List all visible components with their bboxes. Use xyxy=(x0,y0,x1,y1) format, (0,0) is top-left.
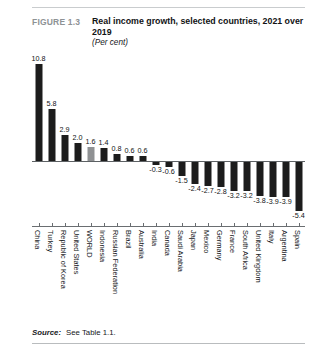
axis-tick xyxy=(286,223,287,226)
bar-slot: 0.6 xyxy=(123,56,136,226)
chart-bar[interactable] xyxy=(191,162,198,184)
bar-value-label: -2.7 xyxy=(201,187,213,195)
axis-tick xyxy=(182,223,183,226)
bar-value-label: 5.8 xyxy=(47,100,57,108)
axis-tick xyxy=(143,223,144,226)
bar-value-label: 10.8 xyxy=(32,55,46,63)
figure-title-block: Real income growth, selected countries, … xyxy=(92,16,307,47)
chart-bar[interactable] xyxy=(230,162,237,191)
bar-value-label: 1.6 xyxy=(86,138,96,146)
chart-bar[interactable] xyxy=(61,135,68,161)
bar-slot: -3.8 xyxy=(253,56,266,226)
top-divider xyxy=(32,7,305,8)
chart-bar[interactable] xyxy=(243,162,250,191)
chart-bar[interactable] xyxy=(269,162,276,197)
axis-tick xyxy=(234,223,235,226)
category-label: Italy xyxy=(268,230,275,244)
chart-bar[interactable] xyxy=(178,162,185,176)
chart-bar[interactable] xyxy=(48,109,55,161)
category-label: South Africa xyxy=(242,230,249,270)
bar-value-label: 1.4 xyxy=(99,139,109,147)
bar-slot: -3.2 xyxy=(240,56,253,226)
category-label: Mexico xyxy=(203,230,210,253)
bar-slot: 1.4 xyxy=(97,56,110,226)
axis-tick xyxy=(273,223,274,226)
bar-slot: -0.3 xyxy=(149,56,162,226)
axis-tick xyxy=(117,223,118,226)
chart-bar[interactable] xyxy=(256,162,263,196)
bar-slot: -3.9 xyxy=(266,56,279,226)
category-axis xyxy=(32,226,305,227)
bar-value-label: 2.9 xyxy=(60,126,70,134)
axis-tick xyxy=(169,223,170,226)
bar-slot: 1.6 xyxy=(84,56,97,226)
axis-tick xyxy=(91,223,92,226)
category-labels: ChinaTurkeyRepublic of KoreaUnited State… xyxy=(32,230,305,315)
bar-value-label: 2.0 xyxy=(73,134,83,142)
category-label: Australia xyxy=(138,230,145,259)
source-note: Source:See Table 1.1. xyxy=(32,328,116,337)
category-label: Saudi Arabia xyxy=(177,230,184,272)
chart-bar[interactable] xyxy=(100,148,107,161)
bar-value-label: -0.3 xyxy=(149,166,161,174)
chart-bar[interactable] xyxy=(217,162,224,187)
axis-tick xyxy=(52,223,53,226)
figure-container: FIGURE 1.3 Real income growth, selected … xyxy=(0,0,319,352)
bar-slot: -3.2 xyxy=(227,56,240,226)
bar-value-label: -2.8 xyxy=(214,188,226,196)
chart-bar[interactable] xyxy=(74,143,81,161)
axis-tick xyxy=(260,223,261,226)
category-label: Canada xyxy=(164,230,171,256)
axis-tick xyxy=(78,223,79,226)
category-label: Turkey xyxy=(47,230,54,252)
axis-tick xyxy=(130,223,131,226)
chart-bar[interactable] xyxy=(113,154,120,161)
chart-bar[interactable] xyxy=(87,147,94,161)
axis-tick xyxy=(221,223,222,226)
bar-slot: 2.0 xyxy=(71,56,84,226)
chart-bar[interactable] xyxy=(295,162,302,211)
category-label: China xyxy=(34,230,41,249)
bar-value-label: -0.6 xyxy=(162,168,174,176)
bar-value-label: -3.2 xyxy=(227,192,239,200)
category-label: France xyxy=(229,230,236,253)
category-label: United States xyxy=(73,230,80,274)
bar-chart-plot: 10.85.82.92.01.61.40.80.60.6-0.3-0.6-1.5… xyxy=(32,56,305,226)
chart-bar[interactable] xyxy=(139,156,146,161)
category-label: WORLD xyxy=(86,230,93,258)
figure-number: FIGURE 1.3 xyxy=(32,17,80,27)
axis-tick xyxy=(156,223,157,226)
axis-tick xyxy=(195,223,196,226)
source-label: Source: xyxy=(32,328,61,337)
bar-slot: -3.9 xyxy=(279,56,292,226)
category-label: United Kingdom xyxy=(255,230,262,283)
chart-bar[interactable] xyxy=(35,64,42,161)
category-label: Argentina xyxy=(281,230,288,262)
category-label: Spain xyxy=(294,230,301,249)
bar-slot: 0.8 xyxy=(110,56,123,226)
axis-tick xyxy=(104,223,105,226)
bar-slot: -2.8 xyxy=(214,56,227,226)
bar-value-label: -3.9 xyxy=(279,198,291,206)
category-label: Germany xyxy=(216,230,223,260)
bottom-divider xyxy=(32,343,305,344)
bar-slot: -5.4 xyxy=(292,56,305,226)
bar-slot: -2.7 xyxy=(201,56,214,226)
bar-value-label: -5.4 xyxy=(292,212,304,220)
source-text: See Table 1.1. xyxy=(66,328,116,337)
bar-slot: -1.5 xyxy=(175,56,188,226)
bar-value-label: -3.2 xyxy=(240,192,252,200)
axis-tick xyxy=(208,223,209,226)
bar-value-label: -3.8 xyxy=(253,197,265,205)
chart-bar[interactable] xyxy=(126,156,133,161)
category-label: Republic of Korea xyxy=(60,230,67,289)
axis-tick xyxy=(247,223,248,226)
bar-value-label: 0.6 xyxy=(125,147,135,155)
chart-bar[interactable] xyxy=(282,162,289,197)
chart-bar[interactable] xyxy=(204,162,211,186)
bar-value-label: -2.4 xyxy=(188,185,200,193)
category-label: Russian Federation xyxy=(112,230,119,294)
axis-tick xyxy=(299,223,300,226)
bar-value-label: -1.5 xyxy=(175,177,187,185)
bar-value-label: 0.6 xyxy=(138,147,148,155)
